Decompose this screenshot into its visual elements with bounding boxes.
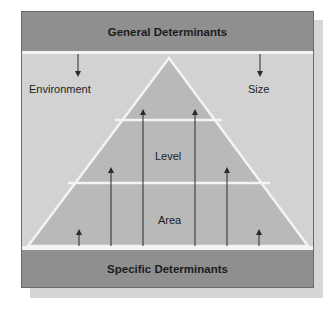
general-determinants-band: General Determinants bbox=[22, 12, 313, 54]
environment-label: Environment bbox=[29, 83, 91, 95]
general-determinants-label: General Determinants bbox=[108, 26, 228, 38]
specific-determinants-band: Specific Determinants bbox=[22, 246, 313, 287]
area-label: Area bbox=[158, 214, 181, 226]
specific-determinants-label: Specific Determinants bbox=[107, 263, 228, 275]
level-label: Level bbox=[155, 150, 181, 162]
size-label: Size bbox=[248, 83, 269, 95]
diagram-frame: General Determinants Environment Size Le… bbox=[21, 11, 314, 288]
